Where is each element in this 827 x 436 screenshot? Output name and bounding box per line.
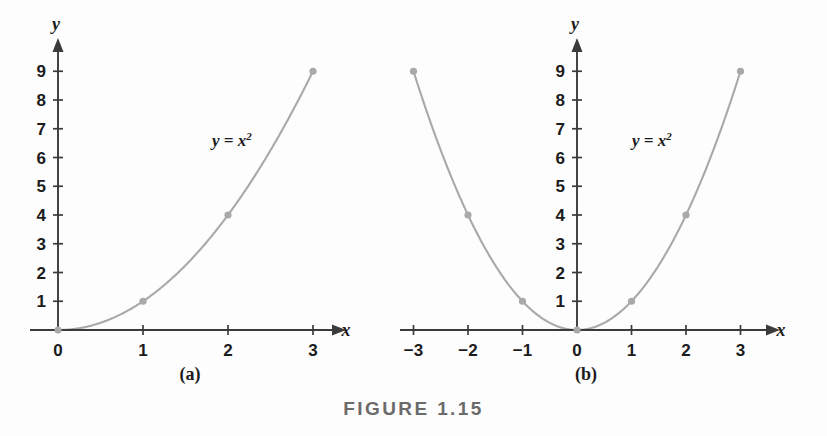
panel-b-data-point: [573, 326, 580, 333]
figure-graphics: 0123123456789xyy = x2−3−2−10123123456789…: [0, 0, 827, 436]
panel-b-y-tick-label-3: 4: [556, 206, 566, 225]
panel-b-y-tick-label-0: 1: [556, 292, 565, 311]
panel-b-y-axis-arrow: [572, 38, 583, 52]
panel-a-y-axis-arrow: [53, 38, 64, 52]
panel-b-y-tick-label-5: 6: [556, 149, 565, 168]
panel-b-data-point: [682, 211, 689, 218]
panel-b-x-tick-label-3: 0: [572, 341, 581, 360]
panel-b-y-tick-label-7: 8: [556, 91, 565, 110]
panel-a-y-axis-label: y: [50, 14, 61, 34]
panel-b-x-axis-label: x: [776, 320, 786, 340]
panel-a-x-tick-label-3: 3: [308, 341, 317, 360]
panel-a-y-tick-label-3: 4: [37, 206, 47, 225]
panel-b-data-point: [464, 211, 471, 218]
panel-b-caption: (b): [556, 364, 616, 385]
panel-b-y-axis-label: y: [569, 14, 580, 34]
panel-b-data-point: [737, 68, 744, 75]
panel-b-data-point: [519, 298, 526, 305]
panel-b-x-tick-label-4: 1: [627, 341, 636, 360]
panel-a-y-tick-label-6: 7: [37, 120, 46, 139]
panel-a-y-tick-label-8: 9: [37, 62, 46, 81]
panel-a-y-tick-label-7: 8: [37, 91, 46, 110]
panel-a-data-point: [224, 211, 231, 218]
panel-b-data-point: [628, 298, 635, 305]
panel-a-data-point: [139, 298, 146, 305]
panel-b-x-tick-label-0: −3: [404, 341, 423, 360]
panel-a-curve: [58, 71, 313, 330]
panel-b-y-tick-label-1: 2: [556, 264, 565, 283]
figure-caption: FIGURE 1.15: [0, 398, 827, 420]
panel-a-y-tick-label-1: 2: [37, 264, 46, 283]
panel-a-y-tick-label-2: 3: [37, 235, 46, 254]
panel-b-x-tick-label-2: −1: [513, 341, 532, 360]
panel-a-caption: (a): [160, 364, 220, 385]
panel-b-y-tick-label-6: 7: [556, 120, 565, 139]
panel-b-y-tick-label-8: 9: [556, 62, 565, 81]
panel-a-x-tick-label-2: 2: [223, 341, 232, 360]
panel-b-group: −3−2−10123123456789xyy = x2: [400, 14, 786, 360]
panel-b-x-tick-label-6: 3: [736, 341, 745, 360]
panel-b-x-tick-label-5: 2: [681, 341, 690, 360]
panel-a-y-tick-label-0: 1: [37, 292, 46, 311]
panel-a-equation-label: y = x2: [210, 130, 252, 150]
panel-a-y-tick-label-4: 5: [37, 177, 46, 196]
panel-a-x-axis-label: x: [341, 320, 351, 340]
panel-a-x-tick-label-1: 1: [138, 341, 147, 360]
panel-b-x-tick-label-1: −2: [458, 341, 477, 360]
panel-a-group: 0123123456789xyy = x2: [30, 14, 351, 360]
panel-a-data-point: [309, 68, 316, 75]
panel-b-y-tick-label-4: 5: [556, 177, 565, 196]
panel-b-equation-label: y = x2: [630, 130, 672, 150]
panel-a-x-tick-label-0: 0: [53, 341, 62, 360]
panel-b-y-tick-label-2: 3: [556, 235, 565, 254]
panel-a-data-point: [54, 326, 61, 333]
panel-b-data-point: [410, 68, 417, 75]
panel-a-y-tick-label-5: 6: [37, 149, 46, 168]
figure-container: 0123123456789xyy = x2−3−2−10123123456789…: [0, 0, 827, 436]
